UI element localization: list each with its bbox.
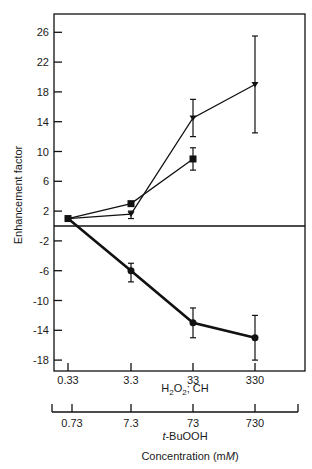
x-tick-label: 3.3 — [123, 374, 138, 386]
x-axis-primary-label: H2O2; CH — [161, 382, 208, 397]
x-axis-secondary: 0.737.373730 — [52, 404, 298, 429]
y-tick-label: 18 — [37, 86, 49, 98]
y-tick-label: 26 — [37, 26, 49, 38]
y-tick-label: 6 — [43, 175, 49, 187]
y-tick-label: 2 — [43, 205, 49, 217]
x-secondary-tick-label: 730 — [246, 417, 264, 429]
data-series — [65, 36, 259, 360]
x-secondary-tick-label: 73 — [187, 417, 199, 429]
plot-frame — [54, 14, 305, 371]
y-axis-label: Enhancement factor — [12, 145, 24, 244]
x-secondary-tick-label: 7.3 — [123, 417, 138, 429]
y-tick-label: 10 — [37, 146, 49, 158]
y-tick-label: -10 — [33, 295, 49, 307]
x-axis-secondary-label: t-BuOOH — [162, 430, 207, 442]
x-secondary-tick-label: 0.73 — [61, 417, 82, 429]
y-tick-label: -14 — [33, 324, 49, 336]
y-axis-ticks: 262218141062-2-6-10-14-18 — [33, 26, 62, 366]
x-tick-label: 330 — [246, 374, 264, 386]
y-tick-label: -2 — [39, 235, 49, 247]
y-tick-label: 14 — [37, 116, 49, 128]
enhancement-chart: 262218141062-2-6-10-14-18 0.333.333330 E… — [0, 0, 312, 469]
y-tick-label: 22 — [37, 56, 49, 68]
y-tick-label: -18 — [33, 354, 49, 366]
x-axis-title: Concentration (mM) — [141, 450, 238, 462]
x-tick-label: 0.33 — [57, 374, 78, 386]
y-tick-label: -6 — [39, 265, 49, 277]
